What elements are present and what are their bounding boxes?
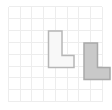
l-shape-light[interactable] (49, 31, 75, 68)
shape-grid-canvas (0, 0, 112, 110)
l-shape-gray[interactable] (84, 43, 110, 80)
shape-overlay (0, 0, 112, 110)
